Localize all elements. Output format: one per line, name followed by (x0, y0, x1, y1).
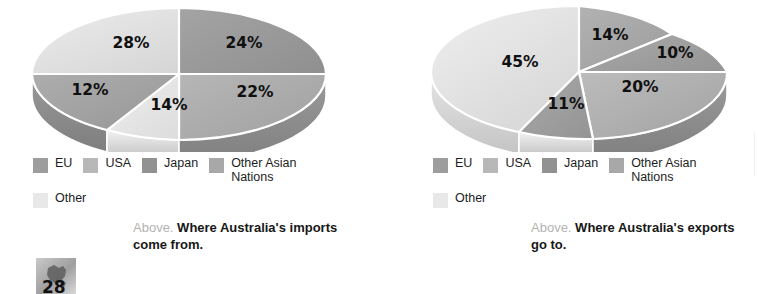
imports-pie-chart: 28% 24% 22% 14% 12% (14, 2, 344, 152)
imports-legend-row-2: Other (33, 191, 363, 208)
legend-swatch-eu (433, 158, 448, 173)
legend-label-usa: USA (505, 156, 531, 170)
exports-chart-panel: 45% 14% 10% 20% 11% EU USA Japan Other A… (379, 0, 758, 294)
legend-item-japan[interactable]: Japan (142, 156, 198, 173)
exports-caption-prefix: Above. (531, 220, 571, 235)
page-thumbnail[interactable]: 28 (32, 256, 80, 294)
legend-item-other-asian[interactable]: Other Asian Nations (609, 156, 696, 184)
legend-label-other-asian: Other Asian Nations (231, 156, 296, 184)
legend-item-usa[interactable]: USA (83, 156, 131, 173)
imports-label-other: 28% (112, 34, 150, 52)
legend-swatch-japan (542, 158, 557, 173)
legend-item-usa[interactable]: USA (483, 156, 531, 173)
exports-label-other-asian: 11% (547, 95, 585, 113)
exports-pie-slices (431, 6, 727, 139)
legend-label-other: Other (55, 191, 86, 205)
exports-pie-chart: 45% 14% 10% 20% 11% (423, 2, 738, 152)
legend-item-eu[interactable]: EU (433, 156, 472, 173)
imports-label-usa: 22% (236, 83, 274, 101)
legend-label-japan: Japan (564, 156, 598, 170)
legend-label-other: Other (455, 191, 486, 205)
legend-swatch-other-asian (609, 158, 624, 173)
imports-pie-slices (32, 8, 326, 140)
imports-label-eu: 24% (225, 34, 263, 52)
legend-label-usa: USA (105, 156, 131, 170)
imports-caption-prefix: Above. (133, 220, 173, 235)
page-number: 28 (42, 277, 66, 294)
legend-label-japan: Japan (164, 156, 198, 170)
imports-chart-panel: 28% 24% 22% 14% 12% EU USA Japan Other A… (0, 0, 379, 294)
legend-swatch-usa (83, 158, 98, 173)
legend-swatch-other (33, 193, 48, 208)
imports-legend: EU USA Japan Other Asian Nations Other (33, 156, 363, 215)
legend-swatch-eu (33, 158, 48, 173)
legend-swatch-other (433, 193, 448, 208)
imports-label-other-asian: 12% (71, 81, 109, 99)
exports-legend-row-2: Other (433, 191, 758, 208)
legend-item-other[interactable]: Other (433, 191, 486, 208)
exports-legend-row-1: EU USA Japan Other Asian Nations (433, 156, 758, 184)
exports-caption: Above. Where Australia's exports go to. (531, 219, 746, 253)
exports-label-eu: 14% (591, 26, 629, 44)
legend-label-other-asian: Other Asian Nations (631, 156, 696, 184)
legend-label-eu: EU (455, 156, 472, 170)
legend-item-other-asian[interactable]: Other Asian Nations (209, 156, 296, 184)
exports-legend: EU USA Japan Other Asian Nations Other (433, 156, 758, 215)
exports-pie-svg: 45% 14% 10% 20% 11% (423, 2, 738, 152)
exports-label-other: 45% (501, 53, 539, 71)
page-edge-rule (754, 132, 755, 176)
imports-pie-svg: 28% 24% 22% 14% 12% (14, 2, 344, 152)
legend-item-other[interactable]: Other (33, 191, 86, 208)
exports-label-japan: 20% (621, 78, 659, 96)
legend-swatch-other-asian (209, 158, 224, 173)
legend-label-eu: EU (55, 156, 72, 170)
imports-slice-other (32, 8, 179, 74)
imports-label-japan: 14% (150, 96, 188, 114)
imports-caption: Above. Where Australia's imports come fr… (133, 219, 348, 253)
exports-label-usa: 10% (656, 44, 694, 62)
legend-swatch-japan (142, 158, 157, 173)
legend-item-japan[interactable]: Japan (542, 156, 598, 173)
legend-swatch-usa (483, 158, 498, 173)
legend-item-eu[interactable]: EU (33, 156, 72, 173)
imports-legend-row-1: EU USA Japan Other Asian Nations (33, 156, 363, 184)
